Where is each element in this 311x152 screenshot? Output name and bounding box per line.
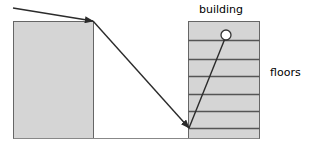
diagram-canvas: building floors [0,0,311,152]
left-obstacle-block [14,22,94,139]
incident-ray [13,8,93,21]
floors-label: floors [270,67,301,78]
building-label: building [199,4,243,15]
diffracted-ray-down [93,21,189,128]
diagram-graphics [0,0,311,152]
receiver-node-circle [221,30,231,40]
